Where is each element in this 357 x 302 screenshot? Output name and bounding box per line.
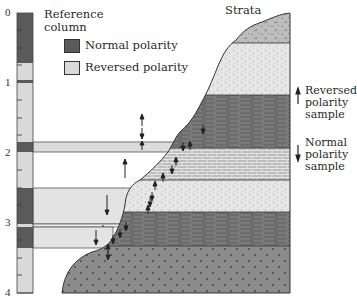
normal-legend-arrow-icon (296, 145, 300, 161)
reversed-sample-arrow (140, 114, 144, 126)
axis-tick-2: 2 (5, 146, 11, 158)
legend-reversed-label: Reversed polarity (85, 61, 188, 74)
axis-tick-3: 3 (5, 216, 11, 228)
normal-sample-legend: Normal polarity sample (305, 137, 348, 173)
reversed-sample-legend: Reversed polarity sample (305, 85, 357, 121)
normal-sample-arrow (140, 128, 144, 139)
legend-arrows (296, 88, 300, 161)
reversed-legend-arrow-icon (296, 88, 300, 104)
reference-column-title: Reference column (44, 8, 103, 34)
layer-basement (0, 246, 290, 293)
axis-tick-1: 1 (5, 76, 11, 88)
legend-normal-label: Normal polarity (85, 39, 178, 52)
reference-column (17, 13, 33, 293)
axis-tick-0: 0 (5, 6, 11, 18)
legend-reversed-swatch (64, 61, 80, 75)
legend-normal-swatch (64, 39, 80, 53)
layer-shale-upper (0, 95, 290, 148)
strata-title: Strata (225, 4, 261, 17)
reversed-sample-arrow (123, 159, 127, 178)
axis-tick-4: 4 (5, 286, 11, 298)
